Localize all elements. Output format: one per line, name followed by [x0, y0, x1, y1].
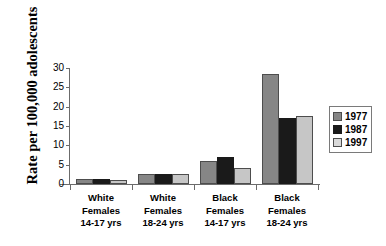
y-axis-tick-label: 15 — [53, 121, 64, 131]
x-axis-separator-tick — [194, 185, 195, 190]
bar — [155, 174, 172, 184]
x-axis-line — [60, 184, 320, 185]
bar-group — [70, 68, 132, 184]
bar-group — [256, 68, 318, 184]
bar-group — [194, 68, 256, 184]
x-axis-separator-tick — [318, 185, 319, 190]
x-axis-separator-tick — [70, 185, 71, 190]
legend-label: 1997 — [345, 138, 367, 148]
y-axis-tick-label: 30 — [53, 63, 64, 73]
bar — [279, 118, 296, 184]
x-axis-label-line: Black — [247, 192, 327, 205]
legend-item[interactable]: 1977 — [333, 110, 367, 123]
legend-label: 1977 — [345, 112, 367, 122]
y-axis-tick-label: 25 — [53, 82, 64, 92]
y-axis-tick-label: 10 — [53, 140, 64, 150]
legend-item[interactable]: 1987 — [333, 123, 367, 136]
legend-item[interactable]: 1997 — [333, 136, 367, 149]
x-axis-separator-tick — [256, 185, 257, 190]
bar — [138, 174, 155, 184]
y-axis-tick-label: 5 — [58, 160, 64, 170]
bar — [110, 180, 127, 184]
bar — [262, 74, 279, 184]
x-axis-separator-tick — [132, 185, 133, 190]
y-axis-tick-label: 0 — [58, 179, 64, 189]
bar-group — [132, 68, 194, 184]
bar-chart: Rate per 100,000 adolescents 05101520253… — [0, 0, 386, 246]
legend-swatch-icon — [333, 112, 342, 121]
bar — [76, 179, 93, 184]
y-axis-title: Rate per 100,000 adolescents — [24, 1, 41, 191]
legend-swatch-icon — [333, 125, 342, 134]
legend-swatch-icon — [333, 138, 342, 147]
y-axis-tick-label: 20 — [53, 102, 64, 112]
bar — [296, 116, 313, 184]
bar — [200, 161, 217, 184]
plot-area: 051015202530 — [70, 68, 318, 184]
legend-label: 1987 — [345, 125, 367, 135]
bar — [217, 157, 234, 184]
x-axis-label-line: Females — [247, 205, 327, 218]
x-axis-group-label: BlackFemales18-24 yrs — [247, 192, 327, 230]
chart-legend: 197719871997 — [329, 106, 372, 153]
bar — [234, 168, 251, 184]
x-axis-label-line: 18-24 yrs — [247, 217, 327, 230]
bar — [93, 179, 110, 184]
bar — [172, 174, 189, 184]
